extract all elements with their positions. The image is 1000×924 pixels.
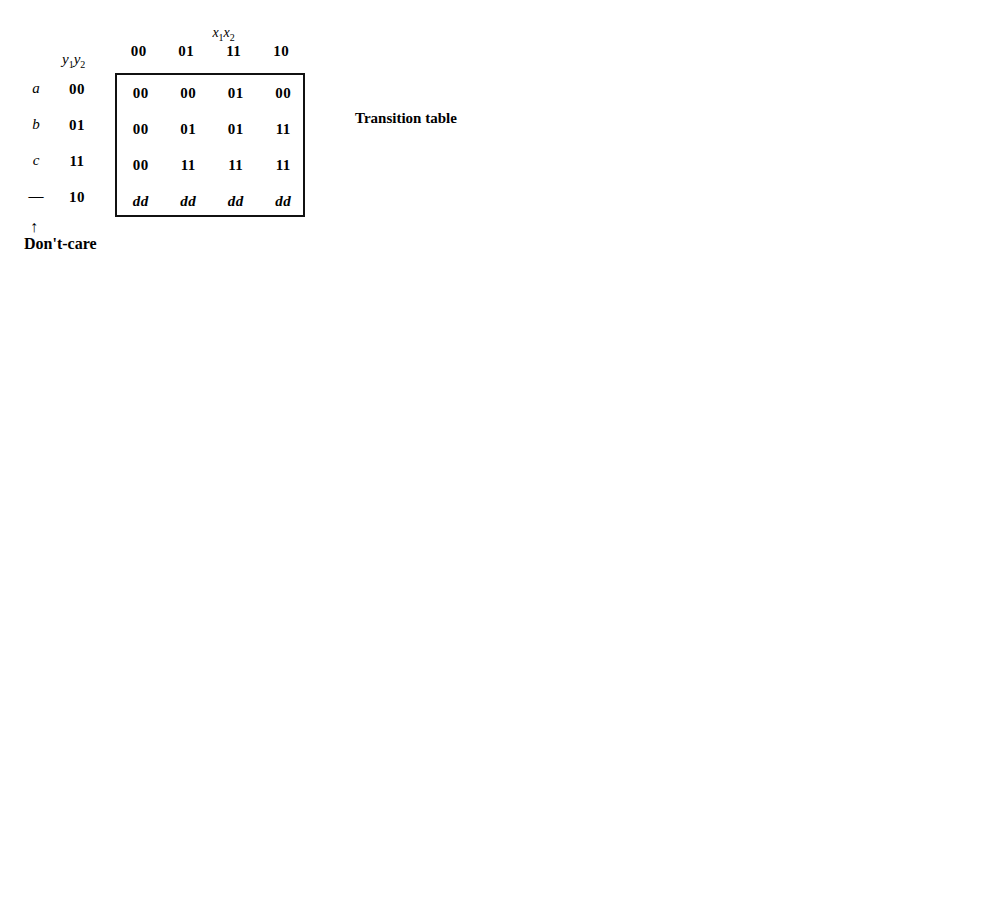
transition-cell: 00 <box>117 147 165 183</box>
transition-cell: 11 <box>260 147 308 183</box>
transition-cell: 11 <box>212 147 260 183</box>
transition-cell: dd <box>212 183 260 219</box>
transition-cell: dd <box>260 183 308 219</box>
transition-cell: 00 <box>117 75 165 111</box>
row-header-00: 00 <box>64 81 90 98</box>
transition-cell: 01 <box>212 75 260 111</box>
column-variable-label: x1x2 <box>212 25 234 43</box>
transition-cell: 11 <box>260 111 308 147</box>
row-variable-label: y1y2 <box>62 51 85 70</box>
transition-cell: 00 <box>260 75 308 111</box>
row-header-10: 10 <box>64 189 90 206</box>
row-state-c: c <box>28 152 44 169</box>
column-header-11: 11 <box>210 43 258 60</box>
dont-care-arrow-icon: ↑ <box>30 219 38 235</box>
transition-table-label: Transition table <box>355 110 457 127</box>
transition-cell: 00 <box>117 111 165 147</box>
transition-cell: dd <box>117 183 165 219</box>
transition-cell: 00 <box>165 75 213 111</box>
transition-cell: 11 <box>165 147 213 183</box>
row-header-01: 01 <box>64 117 90 134</box>
row-state-a: a <box>28 80 44 97</box>
transition-cell: 01 <box>165 111 213 147</box>
transition-cell: 01 <box>212 111 260 147</box>
dont-care-label: Don't-care <box>24 235 97 253</box>
column-header-01: 01 <box>163 43 211 60</box>
figure-page: x1x200011110y1y2a00b01c11—10000001000001… <box>0 0 1000 924</box>
row-header-11: 11 <box>64 153 90 170</box>
transition-table: 000001000001011100111111dddddddd <box>115 73 305 217</box>
row-state-b: b <box>28 116 44 133</box>
transition-cell: dd <box>165 183 213 219</box>
column-header-10: 10 <box>258 43 306 60</box>
row-state-dash: — <box>28 188 44 205</box>
column-header-00: 00 <box>115 43 163 60</box>
